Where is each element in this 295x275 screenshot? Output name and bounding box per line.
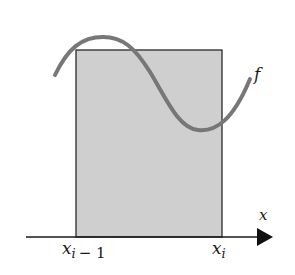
function-label: f [252,64,263,84]
riemann-rectangle [76,50,222,237]
right-endpoint-label: xi [212,238,226,261]
left-endpoint-label: xi− 1 [62,238,106,262]
axis-label: x [259,206,268,224]
riemann-diagram: f x xi− 1 xi [0,0,295,275]
x-axis-arrow-icon [257,228,273,246]
